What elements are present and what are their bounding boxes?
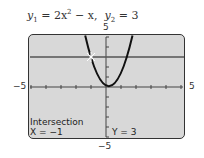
intersection-point	[90, 56, 93, 59]
readout-y: Y = 3	[112, 127, 137, 137]
readout-x: X = −1	[30, 127, 63, 137]
parabola-y1	[85, 36, 132, 87]
readout-heading: Intersection	[30, 117, 84, 127]
